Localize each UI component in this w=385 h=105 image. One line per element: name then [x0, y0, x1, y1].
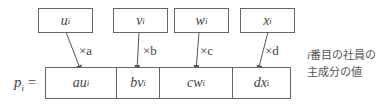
result-cell-cw: cwi [159, 67, 233, 99]
arrow-w [196, 32, 199, 71]
result-label: pi = [14, 74, 36, 93]
annotation-note: i番目の社員の 主成分の値 [307, 47, 376, 81]
multiplier-d: ×d [265, 43, 279, 59]
input-box-u: ui [38, 8, 93, 33]
result-cell-bv: bvi [116, 67, 160, 99]
arrow-v [137, 32, 139, 71]
note-line-1: i番目の社員の [307, 47, 376, 64]
result-cell-dx: dxi [232, 67, 291, 99]
input-label: w [196, 13, 205, 29]
multiplier-b: ×b [143, 43, 157, 59]
note-line-2: 主成分の値 [307, 64, 376, 81]
input-box-w: wi [174, 8, 229, 33]
result-cell-au: aui [45, 67, 117, 99]
input-box-x: xi [240, 8, 295, 33]
multiplier-a: ×a [79, 43, 92, 59]
input-box-v: vi [113, 8, 168, 33]
multiplier-c: ×c [200, 43, 213, 59]
input-label: u [61, 13, 68, 29]
